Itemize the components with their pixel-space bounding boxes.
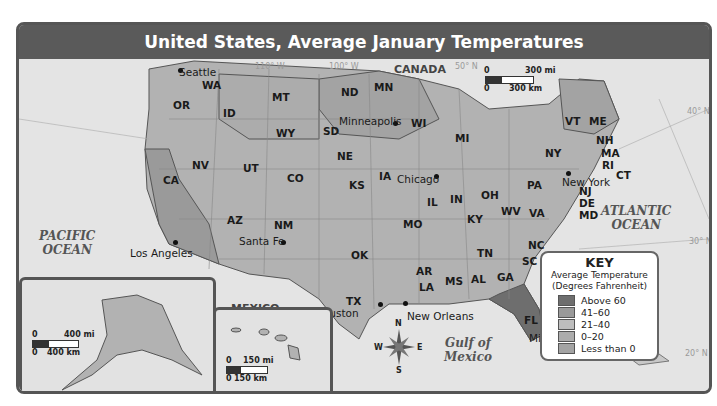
- ocean-label-gulf-of-mexico: Gulf of Mexico: [444, 336, 492, 364]
- state-label-sd: SD: [323, 125, 339, 137]
- state-label-ny: NY: [545, 147, 561, 159]
- key-item: 0–20: [542, 330, 657, 342]
- state-label-ky: KY: [467, 213, 483, 225]
- state-label-fl: FL: [524, 314, 538, 326]
- key-item-label: 0–20: [581, 331, 604, 342]
- state-label-co: CO: [287, 172, 304, 184]
- state-label-nc: NC: [528, 239, 545, 251]
- key-item: 41–60: [542, 306, 657, 318]
- ocean-label-pacific: PACIFIC OCEAN: [39, 229, 95, 257]
- key-title: KEY: [542, 255, 657, 270]
- scale-bar: [226, 366, 268, 374]
- key-swatch: [558, 319, 575, 330]
- coordinate-label: 110° W: [255, 62, 285, 71]
- state-label-nh: NH: [596, 134, 614, 146]
- key-swatch: [558, 331, 575, 342]
- key-item: Less than 0: [542, 342, 657, 354]
- city-label: New York: [562, 176, 610, 188]
- scale-bar: [32, 340, 79, 348]
- key-swatch: [558, 307, 575, 318]
- state-label-ne: NE: [337, 150, 353, 162]
- city-dot-icon: [378, 302, 383, 307]
- key-item-label: Above 60: [581, 295, 626, 306]
- state-label-wy: WY: [276, 127, 295, 139]
- state-label-mt: MT: [272, 91, 290, 103]
- key-items: Above 6041–6021–400–20Less than 0: [542, 294, 657, 354]
- state-label-sc: SC: [522, 255, 537, 267]
- compass-rose: N S E W: [374, 319, 424, 375]
- state-label-ar: AR: [416, 265, 432, 277]
- alaska-shape: [22, 280, 216, 394]
- state-label-wi: WI: [411, 117, 427, 129]
- state-label-il: IL: [427, 196, 438, 208]
- state-label-tn: TN: [477, 247, 493, 259]
- scale-bar: [485, 76, 534, 84]
- key-subtitle: Average Temperature: [542, 270, 657, 281]
- city-dot-icon: [403, 301, 408, 306]
- state-label-vt: VT: [565, 115, 580, 127]
- coordinate-label: 40° N: [687, 107, 710, 116]
- coordinate-label: 20° N: [685, 349, 708, 358]
- state-label-in: IN: [450, 193, 463, 205]
- city-label: Minneapolis: [339, 115, 402, 127]
- state-label-ct: CT: [616, 169, 631, 181]
- state-label-tx: TX: [346, 295, 361, 307]
- state-label-mn: MN: [374, 81, 393, 93]
- state-label-or: OR: [173, 99, 190, 111]
- map-area: WAORIDMTWYNDSDMNNEIAWIMIILINOHNVUTCOCAKS…: [19, 59, 709, 391]
- city-label: Chicago: [397, 173, 439, 185]
- state-label-ca: CA: [163, 174, 179, 186]
- coordinate-label: 50° N: [455, 62, 478, 71]
- state-label-id: ID: [223, 107, 236, 119]
- city-dot-icon: [173, 240, 178, 245]
- state-label-ri: RI: [602, 159, 614, 171]
- state-label-ia: IA: [379, 170, 391, 182]
- key-swatch: [558, 343, 575, 354]
- map-frame: United States, Average January Temperatu…: [16, 22, 712, 394]
- state-label-ga: GA: [497, 271, 514, 283]
- country-label-canada: CANADA: [394, 63, 446, 76]
- state-label-ok: OK: [351, 249, 368, 261]
- state-label-mi: MI: [455, 132, 469, 144]
- state-label-oh: OH: [481, 189, 499, 201]
- state-label-az: AZ: [227, 214, 243, 226]
- map-title: United States, Average January Temperatu…: [19, 25, 709, 59]
- coordinate-label: 30° N: [689, 237, 712, 246]
- state-label-ks: KS: [349, 179, 365, 191]
- key-subtitle-units: (Degrees Fahrenheit): [542, 281, 657, 292]
- key-item-label: Less than 0: [581, 343, 636, 354]
- state-label-de: DE: [579, 197, 595, 209]
- state-label-me: ME: [589, 115, 607, 127]
- city-label: Los Angeles: [130, 247, 193, 259]
- state-label-pa: PA: [527, 179, 542, 191]
- city-label: Seattle: [179, 66, 216, 78]
- key-item: 21–40: [542, 318, 657, 330]
- state-label-la: LA: [419, 281, 434, 293]
- state-label-ut: UT: [243, 162, 259, 174]
- key-swatch: [558, 295, 575, 306]
- state-label-nd: ND: [341, 86, 359, 98]
- key-item-label: 21–40: [581, 319, 610, 330]
- state-label-ma: MA: [601, 147, 620, 159]
- state-label-nv: NV: [192, 159, 209, 171]
- state-label-al: AL: [471, 273, 486, 285]
- state-label-ms: MS: [445, 275, 463, 287]
- key-item-label: 41–60: [581, 307, 610, 318]
- state-label-wv: WV: [501, 205, 521, 217]
- state-label-nm: NM: [274, 219, 293, 231]
- temperature-key: KEY Average Temperature (Degrees Fahrenh…: [540, 251, 659, 361]
- coordinate-label: 100° W: [329, 62, 359, 71]
- state-label-mo: MO: [403, 218, 422, 230]
- city-label: Santa Fe: [239, 235, 285, 247]
- state-label-wa: WA: [202, 79, 221, 91]
- alaska-inset: 0 400 mi 0 400 km: [19, 277, 216, 394]
- state-label-md: MD: [579, 209, 598, 221]
- key-item: Above 60: [542, 294, 657, 306]
- hawaii-inset: 0 150 mi 0 150 km: [213, 307, 333, 394]
- ocean-label-atlantic: ATLANTIC OCEAN: [601, 204, 671, 232]
- state-label-va: VA: [529, 207, 545, 219]
